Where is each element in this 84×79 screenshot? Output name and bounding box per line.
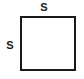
side-label-left: S (4, 40, 16, 51)
side-label-top: S (38, 2, 50, 13)
geometry-figure: S S (0, 0, 84, 79)
square-shape (20, 16, 76, 71)
